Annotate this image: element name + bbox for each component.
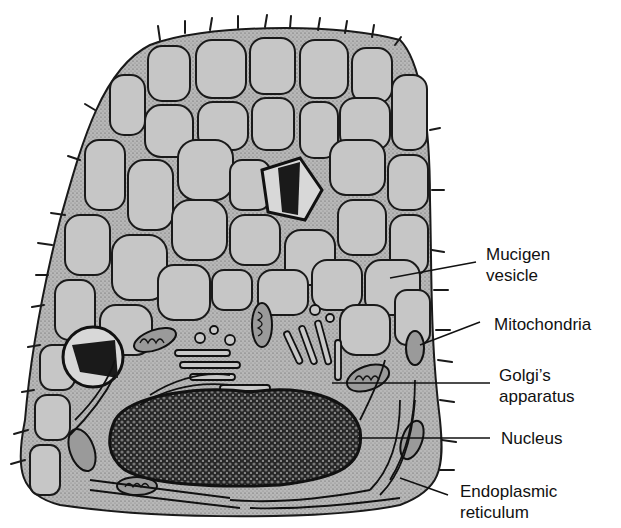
label-golgi-apparatus: Golgi’s apparatus — [499, 365, 575, 407]
goblet-cell-diagram: Mucigen vesicle Mitochondria Golgi’s app… — [0, 0, 621, 528]
label-text: Endoplasmic — [460, 481, 557, 502]
nucleus — [110, 390, 361, 486]
label-text: reticulum — [460, 502, 557, 523]
label-mucigen-vesicle: Mucigen vesicle — [486, 244, 550, 286]
label-text: apparatus — [499, 386, 575, 407]
label-endoplasmic-reticulum: Endoplasmic reticulum — [460, 481, 557, 523]
label-text: Nucleus — [501, 428, 562, 449]
label-text: Mitochondria — [494, 314, 591, 335]
label-text: Mucigen — [486, 244, 550, 265]
label-text: vesicle — [486, 265, 550, 286]
label-text: Golgi’s — [499, 365, 575, 386]
label-nucleus: Nucleus — [501, 428, 562, 449]
label-mitochondria: Mitochondria — [494, 314, 591, 335]
